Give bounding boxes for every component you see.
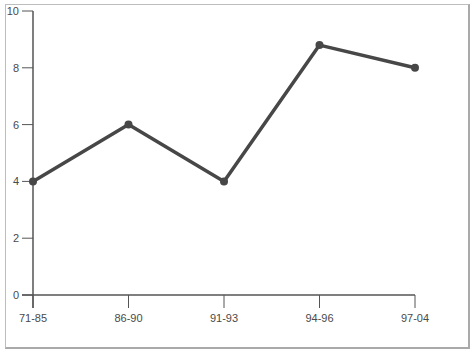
x-tick-label: 91-93 — [210, 312, 238, 324]
y-tick-label: 0 — [13, 289, 19, 301]
y-tick-label: 6 — [13, 119, 19, 131]
data-point-marker — [220, 177, 228, 185]
x-tick-label: 71-85 — [19, 312, 47, 324]
data-point-marker — [29, 177, 37, 185]
y-tick-label: 4 — [13, 175, 19, 187]
x-axis: 71-8586-9091-9394-9697-04 — [19, 295, 429, 324]
x-tick-label: 86-90 — [114, 312, 142, 324]
series-line — [33, 45, 415, 181]
x-tick-label: 94-96 — [305, 312, 333, 324]
data-point-marker — [316, 41, 324, 49]
y-tick-label: 2 — [13, 232, 19, 244]
line-chart: 0246810 71-8586-9091-9394-9697-04 — [0, 0, 474, 357]
data-series — [29, 41, 419, 185]
y-tick-label: 10 — [7, 5, 19, 17]
data-point-marker — [411, 64, 419, 72]
y-tick-label: 8 — [13, 62, 19, 74]
data-point-marker — [125, 121, 133, 129]
y-axis: 0246810 — [7, 5, 33, 308]
x-tick-label: 97-04 — [401, 312, 429, 324]
